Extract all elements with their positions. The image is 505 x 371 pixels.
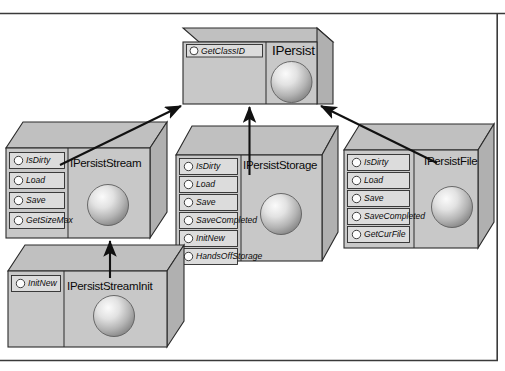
interface-name-ipersist: IPersist [272, 44, 315, 58]
method-label-savecompleted: SaveCompleted [364, 212, 425, 221]
method-label-handsoffstorage: HandsOffStorage [196, 252, 262, 261]
method-label-save: Save [196, 198, 216, 207]
diagram-canvas: GetClassID IPersist IsDirty Load Save Ge… [0, 0, 505, 371]
method-label-load: Load [26, 176, 45, 185]
method-label-save: Save [364, 194, 384, 203]
method-label-isdirty: IsDirty [26, 156, 50, 165]
node-ipersiststreaminit[interactable] [8, 245, 184, 347]
method-label-isdirty: IsDirty [196, 162, 220, 171]
diagram-svg [0, 0, 505, 371]
method-label-initnew: InitNew [196, 234, 225, 243]
method-label-load: Load [364, 176, 383, 185]
method-label-savecompleted: SaveCompleted [196, 216, 257, 225]
method-label-save: Save [26, 196, 46, 205]
method-label-initnew: InitNew [28, 279, 57, 288]
interface-name-ipersiststreaminit: IPersistStreamInit [67, 281, 152, 293]
method-label-getclassid: GetClassID [201, 47, 245, 56]
method-label-isdirty: IsDirty [364, 158, 388, 167]
node-ipersiststorage[interactable] [176, 126, 338, 265]
method-label-getsizemax: GetSizeMax [26, 216, 73, 225]
interface-name-ipersiststream: IPersistStream [70, 158, 141, 170]
interface-name-ipersiststorage: IPersistStorage [243, 160, 317, 172]
method-label-getcurfile: GetCurFile [364, 230, 406, 239]
interface-name-ipersistfile: IPersistFile [424, 156, 477, 168]
node-ipersist[interactable] [183, 28, 333, 104]
method-label-load: Load [196, 180, 215, 189]
